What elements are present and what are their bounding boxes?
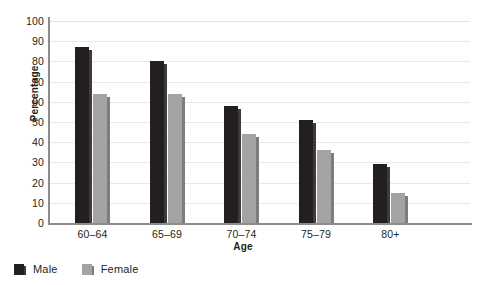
bar-side — [331, 153, 334, 223]
bar-cap — [89, 47, 92, 50]
bar-face — [168, 94, 182, 223]
bar-cap — [182, 94, 185, 97]
bar-face — [373, 164, 387, 223]
bar-cap — [313, 120, 316, 123]
bar-side — [182, 97, 185, 223]
x-tick-label: 80+ — [356, 228, 426, 240]
bar-side — [107, 97, 110, 223]
bar-face — [391, 193, 405, 223]
y-tick-label: 90 — [32, 35, 44, 47]
bar-cap — [387, 164, 390, 167]
swatch-face — [14, 264, 24, 275]
bar-cap — [405, 193, 408, 196]
x-axis-line — [48, 223, 472, 225]
legend-swatch-male — [14, 264, 26, 275]
bar-side — [313, 123, 316, 223]
legend-item-male[interactable]: Male — [14, 263, 58, 275]
bar-group — [224, 21, 259, 223]
legend-label: Male — [33, 263, 58, 275]
x-tick-label: 60–64 — [58, 228, 128, 240]
bar-group — [373, 21, 408, 223]
bar-cap — [238, 106, 241, 109]
bar-cap — [107, 94, 110, 97]
y-tick-label: 30 — [32, 156, 44, 168]
bar-female-75–79 — [317, 150, 334, 223]
bar-cap — [164, 61, 167, 64]
swatch-cap — [24, 264, 26, 266]
swatch-side — [24, 266, 26, 275]
bar-male-70–74 — [224, 106, 241, 223]
bar-face — [150, 61, 164, 223]
y-tick-label: 10 — [32, 197, 44, 209]
bar-side — [387, 167, 390, 223]
legend-swatch-female — [82, 264, 94, 275]
bar-female-65–69 — [168, 94, 185, 223]
bar-side — [238, 109, 241, 223]
bar-chart: 0102030405060708090100 Percentage 60–646… — [0, 0, 486, 285]
bar-female-70–74 — [242, 134, 259, 223]
swatch-face — [82, 264, 92, 275]
x-tick-label: 75–79 — [281, 228, 351, 240]
legend-label: Female — [101, 263, 139, 275]
bar-face — [224, 106, 238, 223]
chart-legend: MaleFemale — [14, 263, 139, 275]
bar-male-75–79 — [299, 120, 316, 223]
bar-side — [89, 50, 92, 223]
bar-group — [150, 21, 185, 223]
swatch-cap — [92, 264, 94, 266]
x-tick-label: 65–69 — [132, 228, 202, 240]
y-axis-title: Percentage — [29, 54, 40, 134]
bar-side — [405, 196, 408, 223]
bar-group — [299, 21, 334, 223]
y-tick-label: 40 — [32, 136, 44, 148]
bar-male-60–64 — [75, 47, 92, 223]
y-tick-label: 20 — [32, 177, 44, 189]
y-tick-label: 100 — [26, 15, 44, 27]
legend-item-female[interactable]: Female — [82, 263, 139, 275]
x-tick-label: 70–74 — [207, 228, 277, 240]
bar-male-65–69 — [150, 61, 167, 223]
y-tick-label: 0 — [38, 217, 44, 229]
bar-face — [317, 150, 331, 223]
bar-side — [256, 137, 259, 223]
bar-face — [75, 47, 89, 223]
bar-female-60–64 — [93, 94, 110, 223]
bar-group — [75, 21, 110, 223]
bar-side — [164, 64, 167, 223]
bar-face — [93, 94, 107, 223]
x-axis-title: Age — [0, 241, 486, 252]
bar-cap — [256, 134, 259, 137]
swatch-side — [92, 266, 94, 275]
bar-male-80+ — [373, 164, 390, 223]
bar-face — [299, 120, 313, 223]
bar-cap — [331, 150, 334, 153]
bar-groups — [49, 21, 470, 223]
bar-face — [242, 134, 256, 223]
bar-female-80+ — [391, 193, 408, 223]
